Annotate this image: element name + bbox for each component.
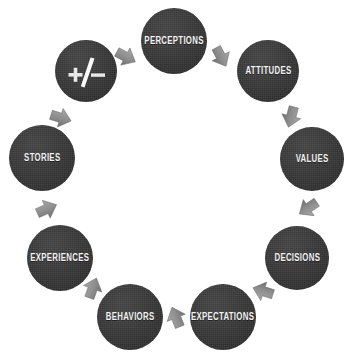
node-plusminus[interactable]: +/−	[55, 40, 117, 102]
cycle-diagram: +/−PERCEPTIONSATTITUDESVALUESDECISIONSEX…	[0, 0, 354, 361]
node-stories[interactable]: STORIES	[9, 125, 75, 191]
node-label-attitudes: ATTITUDES	[245, 66, 291, 76]
node-label-experiences: EXPERIENCES	[31, 253, 90, 263]
arrow-perceptions-to-attitudes	[203, 39, 238, 74]
node-label-expectations: EXPECTATIONS	[191, 312, 254, 322]
node-expectations[interactable]: EXPECTATIONS	[190, 284, 256, 350]
arrow-expectations-to-behaviors	[159, 300, 193, 334]
node-label-values: VALUES	[296, 154, 329, 164]
node-behaviors[interactable]: BEHAVIORS	[97, 284, 163, 350]
arrow-experiences-to-stories	[30, 192, 64, 226]
node-label-decisions: DECISIONS	[274, 253, 320, 263]
node-attitudes[interactable]: ATTITUDES	[237, 40, 299, 102]
node-values[interactable]: VALUES	[280, 127, 344, 191]
node-label-behaviors: BEHAVIORS	[106, 312, 155, 322]
node-perceptions[interactable]: PERCEPTIONS	[141, 8, 207, 74]
node-label-stories: STORIES	[24, 153, 60, 163]
arrow-values-to-decisions	[290, 190, 326, 226]
plus-minus-icon	[55, 40, 117, 102]
node-label-perceptions: PERCEPTIONS	[144, 36, 203, 46]
